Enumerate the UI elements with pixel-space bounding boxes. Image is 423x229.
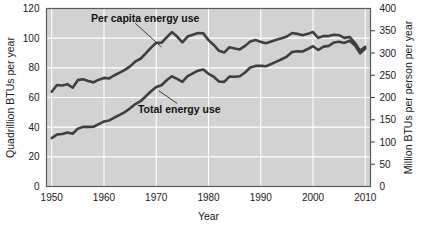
y-axis-left-tick-label: 0 (34, 181, 40, 192)
annotation-label: Per capita energy use (91, 12, 200, 24)
chart-canvas: 020406080100120 050100150200250300350400… (0, 0, 423, 229)
y-axis-right-tick-label: 400 (380, 3, 397, 14)
y-axis-right-title: Million BTUs per person per year (402, 20, 414, 174)
y-axis-right-tick-label: 50 (380, 159, 392, 170)
energy-use-line-chart: 020406080100120 050100150200250300350400… (0, 0, 423, 229)
x-axis-tick-label: 2000 (302, 192, 325, 203)
y-axis-left-tick-label: 100 (23, 33, 40, 44)
y-axis-right-tick-label: 0 (380, 181, 386, 192)
y-axis-left-tick-label: 80 (28, 62, 40, 73)
y-axis-right-tick-label: 250 (380, 70, 397, 81)
x-axis-title: Year (198, 210, 220, 222)
x-axis-tick-label: 1980 (197, 192, 220, 203)
x-axis-tick-label: 1960 (93, 192, 116, 203)
y-axis-left-tick-label: 120 (23, 3, 40, 14)
y-axis-right-tick-label: 150 (380, 114, 397, 125)
y-axis-right-tick-label: 350 (380, 25, 397, 36)
y-axis-left-tick-label: 60 (28, 92, 40, 103)
y-axis-left-title: Quadrillion BTUs per year (4, 37, 16, 158)
y-axis-right-tick-label: 200 (380, 92, 397, 103)
x-axis-tick-label: 1970 (145, 192, 168, 203)
x-axis-tick-label: 1950 (41, 192, 64, 203)
y-axis-left-tick-label: 20 (28, 151, 40, 162)
y-axis-right-tick-label: 100 (380, 137, 397, 148)
x-axis-tick-label: 1990 (250, 192, 273, 203)
annotation-label: Total energy use (138, 103, 221, 115)
x-axis-tick-label: 2010 (354, 192, 377, 203)
y-axis-left-tick-label: 40 (28, 122, 40, 133)
y-axis-right-tick-label: 300 (380, 48, 397, 59)
